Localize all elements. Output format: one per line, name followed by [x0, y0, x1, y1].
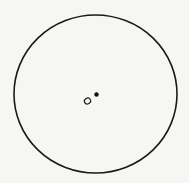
diagram-figure — [0, 0, 189, 183]
hollow-point-marker — [83, 97, 91, 105]
filled-point-marker — [94, 92, 98, 96]
diagram-canvas — [0, 0, 189, 183]
